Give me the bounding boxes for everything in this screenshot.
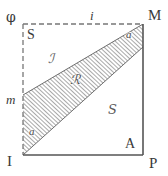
vertex-label-m-upper: M [148, 8, 161, 23]
corner-label-a-area: A [125, 137, 135, 151]
figure-canvas [0, 0, 168, 176]
angle-label-a-top-right: a [126, 29, 132, 40]
geometric-figure: φ M I P S A i m a a ℐ ℛ 𝑆 [0, 0, 168, 176]
angle-label-a-bottom-left: a [29, 126, 35, 137]
vertex-label-phi: φ [6, 10, 16, 24]
vertex-label-i-lower: I [7, 154, 12, 169]
corner-label-s: S [27, 28, 35, 42]
vertex-label-p: P [149, 156, 157, 171]
edge-label-i-top: i [90, 9, 94, 22]
region-label-upper-left: ℐ [48, 52, 54, 65]
region-label-band: ℛ [70, 73, 80, 86]
region-label-lower-right: 𝑆 [108, 103, 117, 116]
edge-label-m-left: m [6, 93, 15, 106]
